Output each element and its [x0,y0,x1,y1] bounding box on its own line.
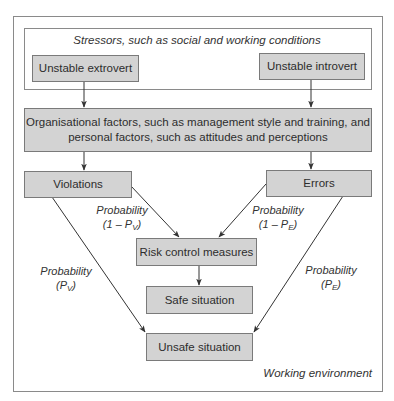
node-risk-control-measures: Risk control measures [136,238,257,266]
node-organisational-factors: Organisational factors, such as manageme… [24,108,372,152]
label-formula: (PE) [299,277,363,295]
label-errors-to-risk: Probability (1 – PE) [246,203,310,235]
label-violations-to-risk: Probability (1 – PV) [90,203,154,235]
node-safe-situation: Safe situation [146,286,253,314]
label-formula: (PV) [34,278,98,296]
organisational-line-2: personal factors, such as attitudes and … [68,130,328,145]
node-violations: Violations [24,171,132,198]
node-errors: Errors [266,170,372,197]
label-formula: (1 – PE) [246,217,310,235]
organisational-line-1: Organisational factors, such as manageme… [26,115,370,130]
working-environment-label: Working environment [263,367,372,379]
label-violations-to-unsafe: Probability (PV) [34,264,98,296]
label-word: Probability [299,263,363,277]
node-unstable-extrovert: Unstable extrovert [32,55,139,82]
stressors-label: Stressors, such as social and working co… [0,34,394,46]
label-word: Probability [34,264,98,278]
label-word: Probability [90,203,154,217]
label-word: Probability [246,203,310,217]
node-unsafe-situation: Unsafe situation [146,333,253,361]
label-formula: (1 – PV) [90,217,154,235]
node-unstable-introvert: Unstable introvert [259,53,365,80]
label-errors-to-unsafe: Probability (PE) [299,263,363,295]
